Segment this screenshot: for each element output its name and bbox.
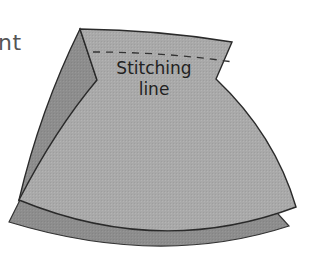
stitching-label-line1: Stitching <box>102 58 206 79</box>
partial-caption: nt <box>0 30 22 55</box>
skirt-diagram: nt Stitching line <box>0 0 313 277</box>
stitching-label-line2: line <box>102 79 206 100</box>
stitching-line-label: Stitching line <box>102 58 206 100</box>
fabric-illustration <box>0 0 313 277</box>
